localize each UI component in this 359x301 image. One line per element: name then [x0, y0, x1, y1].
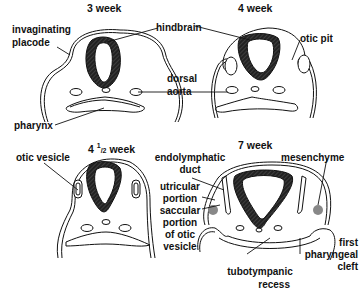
- panel-title-4-half-week: 4 1/2 week: [88, 140, 135, 156]
- label-aorta: aorta: [167, 86, 191, 97]
- panel-title-4-week: 4 week: [238, 3, 272, 14]
- label-first-line2: pharyngeal: [290, 249, 358, 260]
- label-hindbrain: hindbrain: [156, 22, 202, 33]
- label-saccular-line4: vesicle: [155, 241, 205, 252]
- label-otic-vesicle: otic vesicle: [16, 152, 70, 163]
- label-endolymphatic-line1: endolymphatic: [150, 152, 230, 163]
- panel-title-7-week: 7 week: [238, 140, 272, 151]
- label-mesenchyme: mesenchyme: [281, 152, 344, 163]
- label-first-line3: cleft: [290, 261, 358, 272]
- label-invaginating-placode-line1: invaginating: [12, 24, 71, 35]
- label-saccular-line3: of otic: [155, 229, 205, 240]
- panel-title-3-week: 3 week: [87, 3, 121, 14]
- diagram-otic-development: 3 week 4 week 4 1/2 week 7 week invagina…: [0, 0, 359, 301]
- label-endolymphatic-line2: duct: [150, 164, 230, 175]
- label-first-line1: first: [290, 237, 358, 248]
- label-otic-pit: otic pit: [300, 33, 333, 44]
- label-saccular-line1: saccular: [155, 205, 205, 216]
- label-dorsal: dorsal: [167, 73, 197, 84]
- label-tubotympanic-line1: tubotympanic: [220, 266, 300, 277]
- label-saccular-line2: portion: [155, 217, 205, 228]
- label-invaginating-placode-line2: placode: [12, 37, 50, 48]
- panel-3-week-drawing: [41, 30, 183, 122]
- label-pharynx: pharynx: [14, 120, 53, 131]
- panel-4-half-week-drawing: [57, 159, 155, 258]
- label-tubotympanic-line2: recess: [220, 279, 290, 290]
- label-utricular-line2: portion: [155, 193, 205, 204]
- label-utricular-line1: utricular: [155, 181, 205, 192]
